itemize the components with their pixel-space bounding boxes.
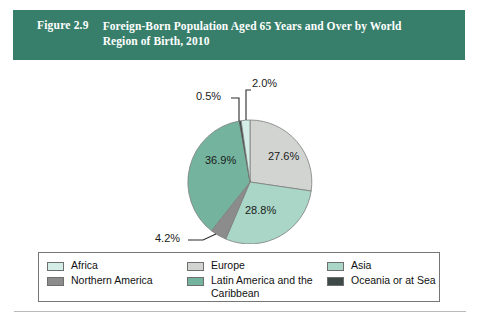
figure-header-content: Figure 2.9 Foreign-Born Population Aged … [37,19,455,49]
pie-chart-svg [0,62,482,244]
legend-swatch-africa [47,262,64,271]
legend-item-africa: Africa [47,259,187,272]
pie-label-asia: 28.8% [245,204,276,216]
leader-line-northern-america [188,234,216,240]
legend-swatch-europe [187,262,204,271]
chart-legend: Africa Europe Asia Northern America Lati… [38,252,440,302]
legend-item-latin-america: Latin America and the Caribbean [187,274,327,300]
legend-item-europe: Europe [187,259,327,272]
legend-label-oceania: Oceania or at Sea [351,274,436,287]
legend-swatch-oceania [327,277,344,286]
legend-label-africa: Africa [71,259,98,272]
pie-chart-area: 27.6% 28.8% 36.9% 2.0% 0.5% 4.2% [0,62,482,244]
pie-label-africa: 2.0% [252,77,277,89]
legend-label-latin-america: Latin America and the Caribbean [211,274,327,300]
leader-line-africa [246,90,251,120]
legend-item-oceania: Oceania or at Sea [327,274,467,300]
pie-label-europe: 27.6% [268,150,299,162]
page-bottom-rule [14,311,466,312]
pie-label-oceania: 0.5% [196,90,221,102]
legend-label-northern-america: Northern America [71,274,153,287]
legend-swatch-asia [327,262,344,271]
legend-label-asia: Asia [351,259,371,272]
leader-line-oceania [231,98,239,121]
pie-label-latin-america: 36.9% [205,154,236,166]
legend-item-asia: Asia [327,259,467,272]
figure-title: Foreign-Born Population Aged 65 Years an… [103,19,433,49]
legend-swatch-northern-america [47,277,64,286]
legend-swatch-latin-america [187,277,204,286]
legend-item-northern-america: Northern America [47,274,187,300]
legend-grid: Africa Europe Asia Northern America Lati… [47,259,437,300]
pie-label-northern-america: 4.2% [155,232,180,244]
figure-number: Figure 2.9 [37,19,89,31]
figure-header-band: Figure 2.9 Foreign-Born Population Aged … [13,10,465,60]
legend-label-europe: Europe [211,259,245,272]
